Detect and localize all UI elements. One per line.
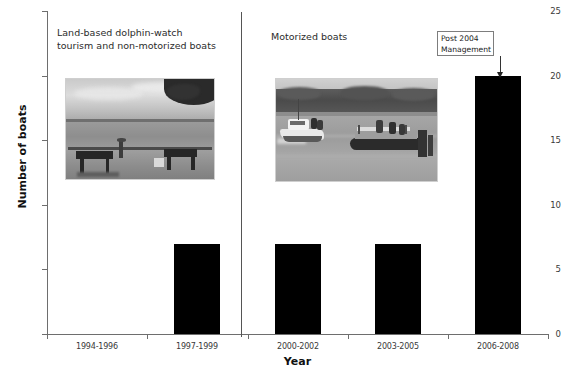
y-tick-25	[42, 11, 47, 12]
photo-border	[275, 78, 438, 182]
y-tick-label-10: 10	[525, 201, 561, 209]
x-axis-label: Year	[47, 355, 548, 368]
photo-motorized-boats	[275, 78, 438, 182]
x-tick-label-2006-2008: 2006-2008	[448, 342, 548, 351]
y-tick-label-0: 0	[525, 330, 561, 338]
y-tick-20	[42, 76, 47, 77]
bar-1997-1999	[174, 244, 220, 334]
x-tick-5	[548, 334, 549, 339]
group-label-land-based: Land-based dolphin-watch tourism and non…	[57, 27, 232, 52]
x-tick-label-2000-2002: 2000-2002	[248, 342, 348, 351]
management-callout-box: Post 2004 Management	[437, 31, 494, 56]
y-tick-label-5: 5	[525, 265, 561, 273]
x-tick-label-1994-1996: 1994-1996	[47, 342, 147, 351]
x-tick-2	[248, 334, 249, 339]
x-tick-0	[47, 334, 48, 339]
y-tick-5	[42, 269, 47, 270]
photo-border	[65, 78, 215, 180]
x-tick-3	[348, 334, 349, 339]
y-tick-10	[42, 205, 47, 206]
y-axis-line	[47, 11, 48, 335]
group-divider-line	[241, 12, 242, 337]
bar-2003-2005	[375, 244, 421, 334]
bar-2000-2002	[275, 244, 321, 334]
photo-land-based-tourism	[65, 78, 215, 180]
y-tick-15	[42, 140, 47, 141]
x-axis-line	[47, 334, 548, 335]
x-tick-1	[147, 334, 148, 339]
x-tick-4	[448, 334, 449, 339]
bar-chart-figure: 0 5 10 15 20 25 Number of boats 1994-199…	[0, 0, 561, 376]
callout-arrow-head-icon	[497, 72, 503, 78]
group-label-motorized: Motorized boats	[271, 31, 401, 44]
y-tick-label-15: 15	[525, 136, 561, 144]
y-axis-label: Number of boats	[16, 87, 29, 227]
y-tick-label-25: 25	[525, 7, 561, 15]
bar-2006-2008	[475, 76, 521, 334]
y-tick-label-20: 20	[525, 72, 561, 80]
x-tick-label-2003-2005: 2003-2005	[348, 342, 448, 351]
x-tick-label-1997-1999: 1997-1999	[147, 342, 247, 351]
